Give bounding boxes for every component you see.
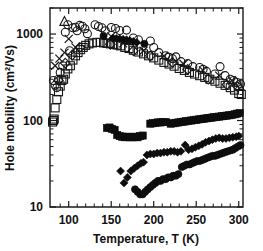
- data-point-filled-circle: [237, 141, 244, 148]
- data-point-filled-square: [236, 109, 243, 116]
- x-tick-label: 250: [186, 213, 206, 227]
- data-point-filled-diamond: [117, 167, 125, 175]
- ticks-group: [50, 8, 243, 207]
- data-point-filled-circle: [100, 32, 107, 39]
- data-point-open-diamond: [146, 51, 156, 61]
- data-point-x-cross: [65, 35, 73, 43]
- data-point-x-cross: [60, 49, 68, 57]
- data-point-open-circle: [83, 30, 91, 38]
- y-axis-title: Hole mobility (cm²/Vs): [3, 45, 17, 171]
- data-point-x-cross: [55, 55, 63, 63]
- data-points-group: [49, 16, 246, 198]
- data-point-open-square: [51, 104, 59, 112]
- x-axis-title: Temperature, T (K): [93, 232, 199, 246]
- x-tick-label: 200: [144, 213, 164, 227]
- data-point-filled-circle: [141, 40, 148, 47]
- y-tick-label: 100: [23, 114, 43, 128]
- data-point-filled-circle: [175, 171, 182, 178]
- axes-group: [50, 8, 243, 207]
- plot-frame: [50, 8, 243, 207]
- y-tick-label: 10: [30, 200, 44, 214]
- data-point-x-cross: [51, 62, 59, 70]
- data-point-filled-square: [139, 132, 146, 139]
- x-tick-label: 100: [59, 213, 79, 227]
- data-point-open-circle: [150, 43, 158, 51]
- y-tick-label: 1000: [16, 27, 43, 41]
- data-point-x-cross: [72, 43, 80, 51]
- data-point-open-square: [53, 95, 61, 103]
- x-tick-label: 300: [229, 213, 249, 227]
- hole-mobility-chart-figure: 100150200250300101001000 Temperature, T …: [0, 0, 263, 251]
- data-point-open-circle: [216, 63, 224, 71]
- tick-labels-group: 100150200250300101001000: [16, 27, 249, 227]
- data-point-x-cross: [140, 47, 148, 55]
- x-tick-label: 150: [101, 213, 121, 227]
- chart-plot-area: 100150200250300101001000 Temperature, T …: [0, 0, 263, 251]
